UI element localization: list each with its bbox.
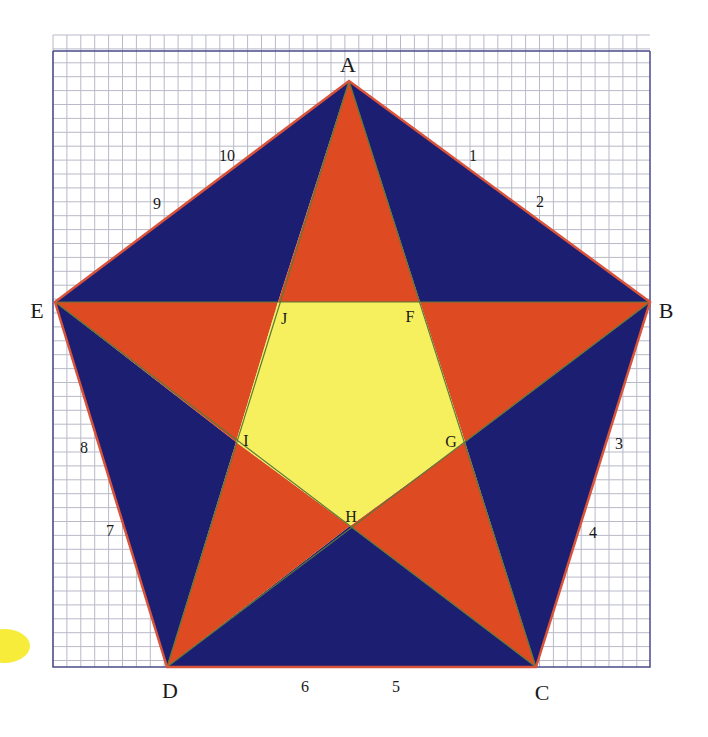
edge-number-6: 6: [301, 678, 309, 695]
edge-number-2: 2: [536, 193, 544, 210]
edge-number-9: 9: [153, 195, 161, 212]
edge-number-5: 5: [392, 678, 400, 695]
vertex-label-i: I: [243, 432, 248, 449]
pentagram-diagram-svg: ABCDEFGHIJ 12345678910: [0, 0, 708, 737]
edge-number-8: 8: [80, 439, 88, 456]
vertex-label-a: A: [340, 52, 356, 77]
pentagram-figure: ABCDEFGHIJ 12345678910: [0, 0, 708, 737]
vertex-label-e: E: [30, 298, 43, 323]
vertex-label-b: B: [659, 298, 674, 323]
edge-number-7: 7: [106, 522, 114, 539]
vertex-label-d: D: [162, 678, 178, 703]
edge-number-3: 3: [615, 435, 623, 452]
edge-number-4: 4: [589, 524, 597, 541]
vertex-label-j: J: [281, 310, 287, 327]
vertex-label-c: C: [535, 680, 550, 705]
vertex-label-f: F: [406, 308, 415, 325]
vertex-label-h: H: [345, 508, 357, 525]
edge-number-10: 10: [219, 147, 235, 164]
yellow-blob: [0, 629, 30, 663]
edge-number-1: 1: [469, 147, 477, 164]
vertex-label-g: G: [445, 433, 457, 450]
